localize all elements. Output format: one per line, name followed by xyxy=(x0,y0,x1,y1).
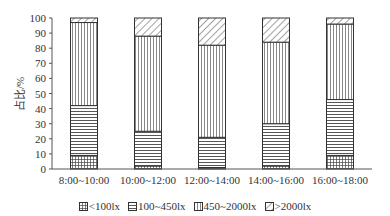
grid-pattern-swatch-icon xyxy=(79,202,88,211)
bar-segment xyxy=(199,137,226,167)
bar-stack xyxy=(327,18,354,169)
y-tick-label: 90 xyxy=(35,27,47,39)
x-tick-label: 14:00~16:00 xyxy=(248,174,305,186)
bar-segment xyxy=(263,18,290,42)
bar-segment xyxy=(327,24,354,100)
y-tick-label: 20 xyxy=(35,133,47,145)
y-tick-label: 70 xyxy=(35,57,47,69)
y-tick-label: 80 xyxy=(35,42,47,54)
legend: <100lx100~450lx450~2000lx>2000lx xyxy=(0,200,390,213)
y-axis-title: 占比/% xyxy=(13,77,26,111)
bar-segment xyxy=(327,18,354,24)
bar-segment xyxy=(263,124,290,166)
bar-segment xyxy=(135,131,162,166)
bar-stack xyxy=(135,18,162,169)
legend-item: 100~450lx xyxy=(128,200,186,212)
bar-segment xyxy=(327,155,354,169)
y-tick-label: 0 xyxy=(41,163,47,175)
bar-segment xyxy=(71,155,98,169)
legend-item: >2000lx xyxy=(265,200,312,212)
stacked-bar-chart: 占比/% 0102030405060708090100 8:00~10:0010… xyxy=(0,0,390,200)
y-tick-label: 60 xyxy=(35,72,47,84)
y-axis: 0102030405060708090100 xyxy=(30,12,53,175)
bar-stack xyxy=(199,18,226,169)
x-axis: 8:00~10:0010:00~12:0012:00~14:0014:00~16… xyxy=(52,169,372,186)
y-tick-label: 40 xyxy=(35,103,47,115)
bar-segment xyxy=(199,18,226,45)
bars xyxy=(71,18,354,169)
horizontal-pattern-swatch-icon xyxy=(128,202,137,211)
x-tick-label: 16:00~18:00 xyxy=(312,174,369,186)
y-tick-label: 100 xyxy=(30,12,47,24)
legend-label: <100lx xyxy=(89,200,120,212)
y-tick-label: 30 xyxy=(35,118,47,130)
bar-segment xyxy=(263,42,290,124)
bar-segment xyxy=(199,45,226,137)
x-tick-label: 8:00~10:00 xyxy=(59,174,110,186)
legend-label: >2000lx xyxy=(275,200,312,212)
legend-label: 100~450lx xyxy=(138,200,186,212)
x-tick-label: 10:00~12:00 xyxy=(120,174,177,186)
bar-segment xyxy=(71,18,98,23)
y-tick-label: 10 xyxy=(35,148,47,160)
bar-segment xyxy=(71,106,98,156)
svg-text:占比/%: 占比/% xyxy=(13,77,26,111)
y-tick-label: 50 xyxy=(35,88,47,100)
diagonal-pattern-swatch-icon xyxy=(265,202,274,211)
bar-segment xyxy=(135,36,162,131)
x-tick-label: 12:00~14:00 xyxy=(184,174,241,186)
bar-segment xyxy=(135,18,162,36)
bar-segment xyxy=(327,100,354,156)
legend-item: 450~2000lx xyxy=(194,200,257,212)
vertical-pattern-swatch-icon xyxy=(194,202,203,211)
bar-segment xyxy=(71,23,98,106)
legend-label: 450~2000lx xyxy=(204,200,257,212)
bar-stack xyxy=(263,18,290,169)
legend-item: <100lx xyxy=(79,200,120,212)
bar-stack xyxy=(71,18,98,169)
